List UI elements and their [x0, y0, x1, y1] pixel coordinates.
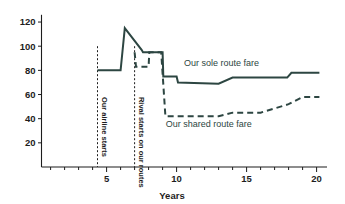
series-label-our-shared-route-fare: Our shared route fare: [166, 119, 252, 129]
x-axis-ticks: [51, 167, 317, 172]
x-tick-label-5: 5: [104, 173, 110, 184]
marker-label-our-airline-starts: Our airline starts: [100, 97, 109, 157]
x-tick-label-15: 15: [241, 173, 252, 184]
y-tick-label-40: 40: [25, 113, 36, 124]
data-series-layer: [98, 28, 320, 116]
marker-label-rival-starts-on-our-routes: Rival starts on our routes: [137, 97, 146, 188]
y-tick-label-100: 100: [20, 41, 36, 52]
x-tick-label-10: 10: [171, 173, 182, 184]
series-label-our-sole-route-fare: Our sole route fare: [184, 58, 259, 68]
x-axis-tick-labels: 5101520: [104, 173, 322, 184]
fare-comparison-line-chart: 20406080100120 5101520 Our airline start…: [0, 0, 345, 204]
chart-canvas: 20406080100120 5101520 Our airline start…: [0, 0, 345, 204]
y-tick-label-80: 80: [25, 65, 36, 76]
y-tick-label-20: 20: [25, 137, 36, 148]
y-tick-label-60: 60: [25, 89, 36, 100]
x-axis-title: Years: [159, 190, 184, 201]
series-labels: Our sole route fareOur shared route fare: [166, 58, 259, 130]
axes: 20406080100120 5101520: [20, 15, 327, 184]
y-tick-label-120: 120: [20, 16, 36, 27]
x-tick-label-20: 20: [311, 173, 322, 184]
y-axis-tick-labels: 20406080100120: [20, 16, 36, 148]
series-line-our-sole-route-fare: [98, 28, 320, 84]
